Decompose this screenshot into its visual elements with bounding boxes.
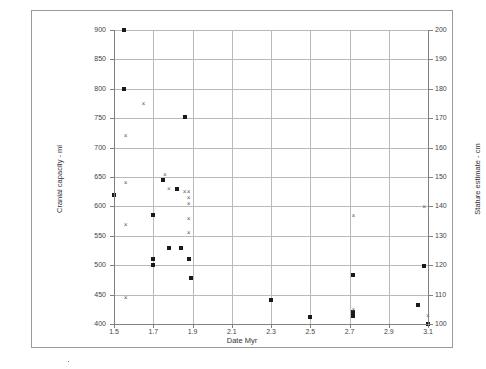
chart-frame: Cranial capacity - ml Stature estimate -… bbox=[31, 10, 453, 348]
chart-legend: Cranial capacity × Stature estimate bbox=[32, 352, 452, 369]
y-axis-left-title: Cranial capacity - ml bbox=[55, 145, 64, 213]
data-point-stature-estimate bbox=[185, 215, 192, 222]
y-axis-left-tick bbox=[110, 30, 114, 31]
y-axis-left-tick-label: 400 bbox=[78, 320, 106, 327]
y-axis-left-tick bbox=[110, 177, 114, 178]
y-axis-left-tick-label: 850 bbox=[78, 55, 106, 62]
y-axis-right-tick bbox=[429, 89, 433, 90]
gridline-vertical bbox=[389, 30, 390, 324]
y-axis-right-tick bbox=[429, 324, 433, 325]
data-point-stature-estimate bbox=[122, 179, 129, 186]
data-point-stature-estimate bbox=[185, 194, 192, 201]
data-point-stature-estimate bbox=[350, 306, 357, 313]
x-axis-tick-label: 2.5 bbox=[298, 328, 322, 335]
x-axis-tick-label: 1.5 bbox=[102, 328, 126, 335]
data-point-cranial-capacity bbox=[167, 246, 171, 250]
y-axis-left-tick bbox=[110, 295, 114, 296]
x-axis-tick-label: 2.7 bbox=[338, 328, 362, 335]
y-axis-left-tick bbox=[110, 265, 114, 266]
y-axis-left-tick-label: 550 bbox=[78, 232, 106, 239]
data-point-cranial-capacity bbox=[351, 310, 355, 314]
y-axis-left-line bbox=[114, 30, 115, 325]
gridline-vertical bbox=[153, 30, 154, 324]
y-axis-left-tick bbox=[110, 206, 114, 207]
data-point-cranial-capacity bbox=[161, 178, 165, 182]
y-axis-left-tick bbox=[110, 118, 114, 119]
y-axis-right-title: Stature estimate - cm bbox=[473, 143, 482, 214]
y-axis-right-tick-label: 120 bbox=[435, 261, 463, 268]
y-axis-right-tick bbox=[429, 295, 433, 296]
y-axis-left-tick-label: 800 bbox=[78, 85, 106, 92]
y-axis-right-tick-label: 130 bbox=[435, 232, 463, 239]
data-point-cranial-capacity bbox=[175, 187, 179, 191]
y-axis-left-tick bbox=[110, 59, 114, 60]
y-axis-left-tick-label: 500 bbox=[78, 261, 106, 268]
gridline-vertical bbox=[350, 30, 351, 324]
data-point-stature-estimate bbox=[165, 185, 172, 192]
y-axis-right-tick-label: 170 bbox=[435, 114, 463, 121]
y-axis-right-tick bbox=[429, 177, 433, 178]
plot-area bbox=[114, 30, 428, 324]
data-point-stature-estimate bbox=[350, 212, 357, 219]
y-axis-right-tick-label: 150 bbox=[435, 173, 463, 180]
y-axis-right-tick bbox=[429, 118, 433, 119]
y-axis-right-tick-label: 190 bbox=[435, 55, 463, 62]
data-point-cranial-capacity bbox=[187, 257, 191, 261]
data-point-cranial-capacity bbox=[179, 246, 183, 250]
y-axis-right-tick-label: 110 bbox=[435, 291, 463, 298]
y-axis-right-tick-label: 140 bbox=[435, 202, 463, 209]
data-point-cranial-capacity bbox=[416, 303, 420, 307]
y-axis-left-tick-label: 450 bbox=[78, 291, 106, 298]
y-axis-left-tick-label: 750 bbox=[78, 114, 106, 121]
y-axis-left-tick-label: 600 bbox=[78, 202, 106, 209]
y-axis-right-tick bbox=[429, 30, 433, 31]
data-point-stature-estimate bbox=[140, 100, 147, 107]
y-axis-right-tick-label: 100 bbox=[435, 320, 463, 327]
y-axis-left-tick bbox=[110, 148, 114, 149]
x-axis-tick-label: 2.3 bbox=[259, 328, 283, 335]
y-axis-left-tick bbox=[110, 236, 114, 237]
x-axis-tick-label: 2.1 bbox=[220, 328, 244, 335]
y-axis-right-tick-label: 180 bbox=[435, 85, 463, 92]
y-axis-right-tick bbox=[429, 236, 433, 237]
gridline-vertical bbox=[271, 30, 272, 324]
y-axis-right-tick bbox=[429, 265, 433, 266]
data-point-cranial-capacity bbox=[351, 273, 355, 277]
y-axis-right-tick-label: 200 bbox=[435, 26, 463, 33]
data-point-stature-estimate bbox=[185, 188, 192, 195]
x-axis-tick-label: 1.9 bbox=[181, 328, 205, 335]
y-axis-right-tick bbox=[429, 206, 433, 207]
x-axis-tick-label: 3.1 bbox=[416, 328, 440, 335]
gridline-vertical bbox=[193, 30, 194, 324]
y-axis-right-tick-label: 160 bbox=[435, 144, 463, 151]
data-point-cranial-capacity bbox=[351, 314, 355, 318]
y-axis-left-tick bbox=[110, 89, 114, 90]
y-axis-left-tick-label: 650 bbox=[78, 173, 106, 180]
data-point-stature-estimate bbox=[181, 188, 188, 195]
x-axis-tick-label: 2.9 bbox=[377, 328, 401, 335]
gridline-vertical bbox=[310, 30, 311, 324]
x-axis-title: Date Myr bbox=[32, 336, 452, 345]
y-axis-left-tick-label: 900 bbox=[78, 26, 106, 33]
x-axis-tick-label: 1.7 bbox=[141, 328, 165, 335]
stray-mark bbox=[68, 361, 69, 362]
y-axis-right-tick bbox=[429, 59, 433, 60]
y-axis-right-tick bbox=[429, 148, 433, 149]
gridline-vertical bbox=[232, 30, 233, 324]
data-point-stature-estimate bbox=[122, 132, 129, 139]
y-axis-left-tick-label: 700 bbox=[78, 144, 106, 151]
data-point-stature-estimate bbox=[122, 221, 129, 228]
